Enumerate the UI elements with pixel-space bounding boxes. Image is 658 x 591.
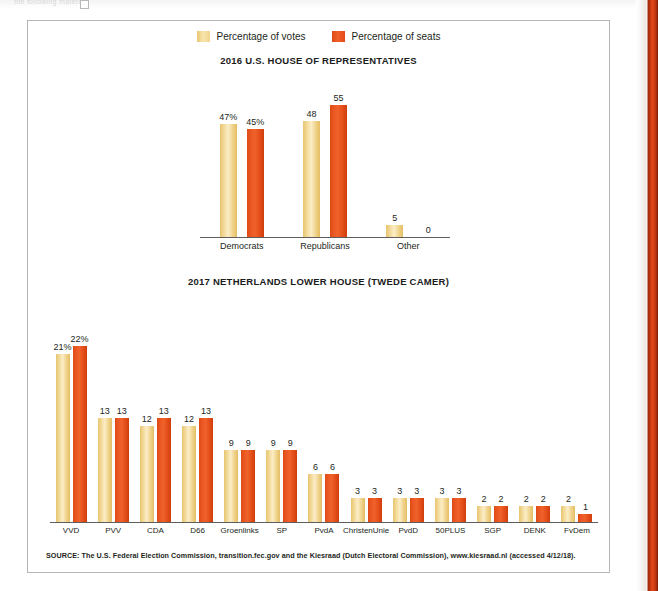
bar-group: 66PvdA bbox=[303, 312, 345, 522]
category-label: Democrats bbox=[220, 241, 264, 251]
page-edge-red-band bbox=[646, 0, 658, 591]
bar-percentage-of-votes: 21% bbox=[56, 354, 70, 522]
bar-percentage-of-votes: 13 bbox=[98, 418, 112, 522]
bar-value-label: 48 bbox=[306, 109, 316, 119]
bar-value-label: 1 bbox=[583, 502, 588, 512]
bar-percentage-of-seats: 3 bbox=[452, 498, 466, 522]
bar-value-label: 13 bbox=[159, 406, 169, 416]
figure-card: Percentage of votes Percentage of seats … bbox=[27, 20, 610, 573]
legend-item-seats: Percentage of seats bbox=[332, 31, 441, 42]
bar-value-label: 6 bbox=[330, 462, 335, 472]
bar-percentage-of-seats: 13 bbox=[157, 418, 171, 522]
bar-group: 1213CDA bbox=[134, 312, 176, 522]
bar-percentage-of-seats: 2 bbox=[494, 506, 508, 522]
scan-header-ghost-mark bbox=[80, 0, 89, 9]
category-label: D66 bbox=[190, 526, 205, 535]
bar-value-label: 9 bbox=[288, 438, 293, 448]
bar-percentage-of-votes: 6 bbox=[308, 474, 322, 522]
legend-label-votes: Percentage of votes bbox=[217, 31, 306, 42]
bar-percentage-of-votes: 12 bbox=[182, 426, 196, 522]
bar-value-label: 13 bbox=[100, 406, 110, 416]
bar-percentage-of-seats: 55 bbox=[330, 105, 347, 237]
source-note: SOURCE: The U.S. Federal Election Commis… bbox=[46, 552, 595, 561]
category-label: Other bbox=[397, 241, 420, 251]
chart-us-house-axis bbox=[200, 237, 450, 239]
bar-value-label: 9 bbox=[271, 438, 276, 448]
bar-group: 1213D66 bbox=[176, 312, 218, 522]
category-label: PvdD bbox=[399, 526, 419, 535]
bar-value-label: 9 bbox=[246, 438, 251, 448]
bar-percentage-of-seats: 6 bbox=[325, 474, 339, 522]
bar-percentage-of-seats: 3 bbox=[368, 498, 382, 522]
chart-netherlands-axis bbox=[50, 522, 598, 524]
bar-group: 21FvDem bbox=[556, 312, 598, 522]
bar-percentage-of-votes: 3 bbox=[435, 498, 449, 522]
bar-value-label: 13 bbox=[117, 406, 127, 416]
bar-percentage-of-seats: 13 bbox=[199, 418, 213, 522]
category-label: PVV bbox=[105, 526, 121, 535]
bar-group: 47%45%Democrats bbox=[200, 75, 283, 237]
scan-header-strip: the following material bbox=[0, 0, 640, 9]
category-label: Groenlinks bbox=[221, 526, 259, 535]
legend-item-votes: Percentage of votes bbox=[197, 31, 306, 42]
bar-percentage-of-votes: 47% bbox=[220, 124, 237, 237]
category-label: SGP bbox=[484, 526, 501, 535]
bar-percentage-of-seats: 9 bbox=[241, 450, 255, 522]
bar-value-label: 2 bbox=[566, 494, 571, 504]
bar-group: 3350PLUS bbox=[429, 312, 471, 522]
chart-title-netherlands: 2017 NETHERLANDS LOWER HOUSE (TWEDE CAME… bbox=[28, 276, 609, 287]
bar-value-label: 47% bbox=[219, 112, 237, 122]
bar-value-label: 12 bbox=[142, 414, 152, 424]
bar-group: 22DENK bbox=[514, 312, 556, 522]
bar-percentage-of-votes: 12 bbox=[140, 426, 154, 522]
bar-percentage-of-votes: 9 bbox=[266, 450, 280, 522]
page-edge-shadow bbox=[636, 0, 646, 591]
category-label: VVD bbox=[63, 526, 79, 535]
bar-value-label: 3 bbox=[355, 486, 360, 496]
bar-percentage-of-seats: 22% bbox=[73, 346, 87, 522]
bar-value-label: 12 bbox=[184, 414, 194, 424]
chart-legend: Percentage of votes Percentage of seats bbox=[28, 31, 609, 42]
bar-percentage-of-votes: 3 bbox=[393, 498, 407, 522]
bar-percentage-of-votes: 5 bbox=[386, 225, 403, 237]
legend-label-seats: Percentage of seats bbox=[352, 31, 441, 42]
bar-percentage-of-votes: 3 bbox=[351, 498, 365, 522]
bar-value-label: 2 bbox=[482, 494, 487, 504]
bar-group: 500Other bbox=[367, 75, 450, 237]
bar-value-label: 3 bbox=[439, 486, 444, 496]
chart-netherlands-plot: 21%22%VVD1313PVV1213CDA1213D6699Groenlin… bbox=[50, 313, 598, 523]
bar-value-label: 3 bbox=[372, 486, 377, 496]
bar-group: 99SP bbox=[261, 312, 303, 522]
bar-value-label: 55 bbox=[333, 93, 343, 103]
bar-value-label: 9 bbox=[229, 438, 234, 448]
bar-value-label: 5 bbox=[392, 213, 397, 223]
category-label: FvDem bbox=[564, 526, 590, 535]
chart-title-us-house: 2016 U.S. HOUSE OF REPRESENTATIVES bbox=[28, 55, 609, 66]
category-label: CDA bbox=[147, 526, 164, 535]
bar-percentage-of-votes: 2 bbox=[519, 506, 533, 522]
bar-percentage-of-votes: 2 bbox=[477, 506, 491, 522]
bar-value-label: 2 bbox=[524, 494, 529, 504]
bar-value-label: 0 bbox=[426, 225, 431, 235]
category-label: SP bbox=[276, 526, 287, 535]
bar-value-label: 2 bbox=[499, 494, 504, 504]
bar-percentage-of-seats: 9 bbox=[283, 450, 297, 522]
bar-value-label: 2 bbox=[541, 494, 546, 504]
bar-value-label: 13 bbox=[201, 406, 211, 416]
chart-us-house-plot: 47%45%Democrats4855Republicans500Other bbox=[200, 76, 450, 238]
bar-group: 33ChristenUnie bbox=[345, 312, 387, 522]
bar-group: 4855Republicans bbox=[283, 75, 366, 237]
bar-value-label: 6 bbox=[313, 462, 318, 472]
bar-value-label: 3 bbox=[397, 486, 402, 496]
legend-swatch-seats bbox=[332, 31, 345, 42]
scan-header-ghost-text: the following material bbox=[14, 0, 86, 5]
bar-group: 21%22%VVD bbox=[50, 312, 92, 522]
category-label: Republicans bbox=[300, 241, 350, 251]
bar-percentage-of-seats: 3 bbox=[410, 498, 424, 522]
bar-percentage-of-seats: 45% bbox=[247, 129, 264, 237]
bar-group: 22SGP bbox=[472, 312, 514, 522]
bar-percentage-of-votes: 9 bbox=[224, 450, 238, 522]
bar-group: 1313PVV bbox=[92, 312, 134, 522]
category-label: PvdA bbox=[314, 526, 333, 535]
bar-value-label: 45% bbox=[246, 117, 264, 127]
